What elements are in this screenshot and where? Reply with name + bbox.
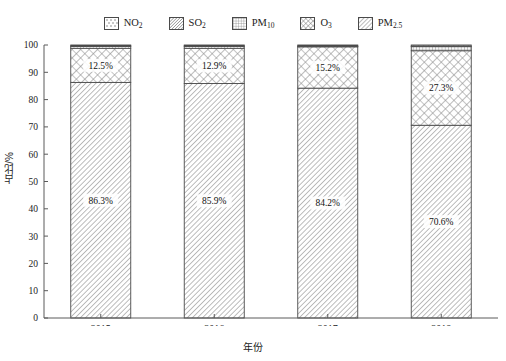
segment-value-label: 12.5% — [88, 61, 113, 71]
segment-value-label: 12.9% — [202, 61, 227, 71]
y-tick-label: 80 — [29, 95, 39, 105]
legend-label-no2: NO2 — [124, 18, 143, 29]
y-tick-label: 50 — [29, 177, 39, 187]
y-tick-label: 70 — [29, 122, 39, 132]
legend-label-pm25: PM2.5 — [378, 18, 403, 29]
y-tick-label: 20 — [29, 259, 39, 269]
bar-segment-no2[interactable] — [411, 45, 471, 46]
segment-value-label: 15.2% — [315, 63, 340, 73]
y-tick-label: 10 — [29, 286, 39, 296]
legend-item-pm25[interactable]: PM2.5 — [358, 17, 403, 30]
bar-segment-no2[interactable] — [184, 45, 244, 46]
y-tick-label: 90 — [29, 68, 39, 78]
segment-value-label: 27.3% — [429, 83, 454, 93]
segment-value-label: 86.3% — [88, 196, 113, 206]
bar-segment-no2[interactable] — [71, 45, 131, 46]
legend-item-pm10[interactable]: PM10 — [232, 17, 275, 30]
x-category-label: 2015 — [91, 323, 111, 326]
legend-swatch-no2-icon — [104, 17, 119, 30]
legend-label-pm10: PM10 — [252, 18, 275, 29]
x-category-label: 2018 — [431, 323, 451, 326]
legend-swatch-pm25-icon — [358, 17, 373, 30]
stacked-bar-chart: NO2 SO2 PM10 O3 PM2.5 占比/% — [0, 0, 506, 361]
legend-item-no2[interactable]: NO2 — [104, 17, 143, 30]
bar-segment-pm10[interactable] — [411, 47, 471, 51]
segment-value-label: 85.9% — [202, 196, 227, 206]
legend-swatch-so2-icon — [169, 17, 184, 30]
segment-value-label: 70.6% — [429, 217, 454, 227]
plot-area: 0102030405060708090100 86.3%12.5%85.9%12… — [0, 36, 506, 326]
legend-item-o3[interactable]: O3 — [300, 17, 331, 30]
x-axis-title: 年份 — [0, 339, 506, 354]
y-tick-label: 30 — [29, 232, 39, 242]
legend-label-so2: SO2 — [189, 18, 206, 29]
plot-svg: 0102030405060708090100 86.3%12.5%85.9%12… — [0, 36, 506, 326]
x-category-label: 2016 — [204, 323, 224, 326]
y-tick-label: 60 — [29, 150, 39, 160]
legend-swatch-o3-icon — [300, 17, 315, 30]
y-tick-label: 0 — [33, 313, 38, 323]
legend-item-so2[interactable]: SO2 — [169, 17, 206, 30]
chart-legend: NO2 SO2 PM10 O3 PM2.5 — [0, 12, 506, 34]
legend-label-o3: O3 — [320, 18, 331, 29]
x-category-label: 2017 — [318, 323, 338, 326]
bar-segment-no2[interactable] — [298, 45, 358, 46]
y-tick-label: 100 — [24, 40, 39, 50]
segment-value-label: 84.2% — [315, 198, 340, 208]
bar-group: 86.3%12.5%85.9%12.9%84.2%15.2%70.6%27.3% — [71, 45, 472, 318]
y-tick-label: 40 — [29, 204, 39, 214]
legend-swatch-pm10-icon — [232, 17, 247, 30]
x-axis-categories: 2015201620172018 — [91, 314, 452, 326]
